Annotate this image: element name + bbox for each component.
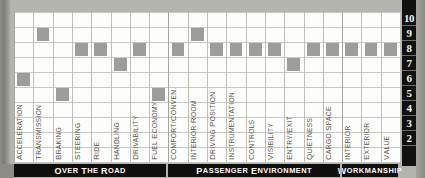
grid-line-vertical bbox=[53, 12, 54, 162]
rating-bar bbox=[17, 73, 30, 86]
rating-bar bbox=[152, 88, 165, 101]
category-label: INTERIOR bbox=[344, 125, 352, 160]
grid-line-vertical bbox=[207, 12, 208, 162]
rating-bar bbox=[114, 58, 127, 71]
scale-tick-6: 6 bbox=[402, 72, 416, 86]
rating-bar bbox=[249, 43, 262, 56]
grid-line-horizontal bbox=[14, 162, 400, 163]
category-label: EXTERIOR bbox=[363, 122, 371, 160]
scale-tick-2: 2 bbox=[402, 132, 416, 146]
category-label: FUEL ECONOMY bbox=[151, 101, 159, 160]
grid-line-vertical bbox=[130, 12, 131, 162]
group-divider bbox=[14, 12, 15, 162]
rating-bar bbox=[287, 58, 300, 71]
grid-line-vertical bbox=[381, 12, 382, 162]
scale-top-cap bbox=[402, 0, 416, 12]
grid-line-vertical bbox=[111, 12, 112, 162]
ratings-chart: ACCELERATIONTRANSMISSIONBRAKINGSTEERINGR… bbox=[0, 0, 425, 178]
scale-tick-5: 5 bbox=[402, 87, 416, 101]
category-label: HANDLING bbox=[112, 122, 120, 160]
section-bands: OVER THE ROADPASSENGER ENVIRONMENTWORKMA… bbox=[14, 164, 416, 177]
section-band: PASSENGER ENVIRONMENT bbox=[168, 164, 340, 177]
scale-tick-10: 10 bbox=[402, 12, 416, 26]
scale-tick-3: 3 bbox=[402, 117, 416, 131]
section-band: OVER THE ROAD bbox=[14, 164, 166, 177]
category-label: COMFORT/CONVEN. bbox=[170, 87, 178, 160]
category-label: DRIVING POSITION bbox=[209, 91, 217, 160]
grid-line-vertical bbox=[246, 12, 247, 162]
rating-bar bbox=[384, 43, 397, 56]
rating-bar bbox=[75, 43, 88, 56]
category-label: QUIETNESS bbox=[305, 118, 313, 160]
category-label: STEERING bbox=[74, 122, 82, 160]
section-band: WORKMANSHIP bbox=[342, 164, 398, 177]
grid-line-vertical bbox=[323, 12, 324, 162]
category-label: RIDE bbox=[93, 142, 101, 160]
scale-tick-8: 8 bbox=[402, 42, 416, 56]
rating-bar bbox=[345, 43, 358, 56]
rating-bar bbox=[268, 43, 281, 56]
rating-bar bbox=[37, 28, 50, 41]
rating-bar bbox=[56, 88, 69, 101]
category-label: CARGO SPACE bbox=[325, 106, 333, 160]
page-right-edge bbox=[416, 0, 425, 178]
rating-bar bbox=[94, 43, 107, 56]
rating-bar bbox=[210, 43, 223, 56]
grid-line-vertical bbox=[91, 12, 92, 162]
scale-tick-4: 4 bbox=[402, 102, 416, 116]
category-label: INTERIOR ROOM bbox=[190, 100, 198, 160]
rating-bar bbox=[133, 43, 146, 56]
category-label: ENTRY/EXIT bbox=[286, 116, 294, 160]
scale-tick-9: 9 bbox=[402, 27, 416, 41]
band-separator bbox=[166, 164, 168, 177]
category-label: TRANSMISSION bbox=[35, 105, 43, 160]
plot-area: ACCELERATIONTRANSMISSIONBRAKINGSTEERINGR… bbox=[14, 12, 400, 162]
rating-bar bbox=[326, 43, 339, 56]
grid-line-vertical bbox=[188, 12, 189, 162]
category-label: INSTRUMENTATION bbox=[228, 92, 236, 160]
rating-bar bbox=[191, 28, 204, 41]
grid-line-vertical bbox=[72, 12, 73, 162]
grid-line-vertical bbox=[265, 12, 266, 162]
rating-bar bbox=[230, 43, 243, 56]
band-separator bbox=[340, 164, 342, 177]
score-scale: 10987654321 bbox=[402, 12, 416, 162]
scale-tick-7: 7 bbox=[402, 57, 416, 71]
rating-bar bbox=[365, 43, 378, 56]
category-label: ACCELERATION bbox=[16, 104, 24, 160]
category-label: CONTROLS bbox=[248, 119, 256, 160]
rating-bar bbox=[307, 43, 320, 56]
category-label: BRAKING bbox=[55, 127, 63, 160]
category-label: DRIVABILITY bbox=[132, 115, 140, 160]
category-label: VALUE bbox=[383, 136, 391, 160]
rating-bar bbox=[172, 43, 185, 56]
bottom-left-strip bbox=[0, 164, 14, 178]
category-label: VISIBILITY bbox=[267, 123, 275, 160]
page-gutter bbox=[0, 0, 10, 178]
grid-line-vertical bbox=[400, 12, 401, 162]
grid-line-vertical bbox=[304, 12, 305, 162]
